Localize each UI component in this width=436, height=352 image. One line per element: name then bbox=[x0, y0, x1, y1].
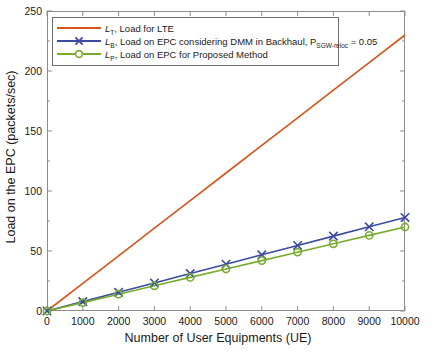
legend-item: LB, Load on EPC considering DMM in Backh… bbox=[57, 35, 334, 47]
legend-line-swatch bbox=[57, 27, 101, 29]
x-tick-label: 8000 bbox=[322, 315, 345, 327]
legend-item: LP, Load on EPC for Proposed Method bbox=[57, 48, 334, 60]
x-tick-label: 2000 bbox=[107, 315, 130, 327]
legend-circle-marker-icon bbox=[74, 49, 84, 59]
legend-item: LT, Load for LTE bbox=[57, 22, 334, 34]
x-tick-label: 6000 bbox=[250, 315, 273, 327]
x-tick-label: 0 bbox=[44, 315, 50, 327]
legend-sample-x bbox=[57, 35, 101, 47]
x-axis-title: Number of User Equipments (UE) bbox=[0, 331, 436, 345]
chart-legend: LT, Load for LTELB, Load on EPC consider… bbox=[52, 17, 339, 66]
legend-label: LT, Load for LTE bbox=[105, 23, 174, 34]
legend-sample-none bbox=[57, 22, 101, 34]
legend-x-marker-icon bbox=[74, 36, 84, 46]
x-tick-label: 7000 bbox=[286, 315, 309, 327]
legend-sample-o bbox=[57, 48, 101, 60]
x-tick-label: 5000 bbox=[214, 315, 237, 327]
x-tick-label: 3000 bbox=[143, 315, 166, 327]
x-tick-label: 9000 bbox=[358, 315, 381, 327]
figure-container: 0501001502002500100020003000400050006000… bbox=[0, 0, 436, 352]
x-tick-label: 10000 bbox=[390, 315, 419, 327]
legend-label: LP, Load on EPC for Proposed Method bbox=[105, 49, 268, 60]
x-tick-label: 1000 bbox=[71, 315, 94, 327]
y-axis-title: Load on the EPC (packets/sec) bbox=[4, 7, 18, 307]
x-tick-label: 4000 bbox=[179, 315, 202, 327]
legend-label: LB, Load on EPC considering DMM in Backh… bbox=[105, 36, 377, 47]
